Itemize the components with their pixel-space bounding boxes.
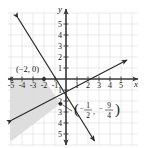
point-leader-line: [63, 105, 73, 111]
intersection-point-label: ( − 1 2 , − 9 4 ): [74, 101, 120, 120]
x-tick-label: -5: [8, 81, 15, 90]
x-tick-label: -4: [19, 81, 26, 90]
label-open-paren: (: [74, 101, 79, 118]
x-tick-label: -2: [41, 81, 48, 90]
x-intercept-label: (−2, 0): [16, 64, 39, 74]
x-tick-label: 5: [119, 81, 123, 90]
y-tick-label: 2: [58, 97, 62, 106]
y-tick-label: 1: [58, 64, 62, 73]
label-second-denominator: 4: [107, 111, 111, 120]
label-first-sign: −: [80, 105, 84, 113]
x-axis-label: x: [133, 79, 138, 89]
x-tick-label: 4: [108, 81, 112, 90]
label-close-paren: ): [115, 101, 120, 118]
label-first-denominator: 2: [86, 111, 90, 120]
coordinate-plane-figure: -5 -4 -3 -2 -1 1 2 3 4 5 5 4 3 2 1 1 2 3…: [0, 0, 144, 148]
y-tick-label: 2: [58, 53, 62, 62]
label-second-numerator: 9: [107, 101, 111, 110]
y-tick-label: 3: [58, 42, 62, 51]
y-tick-label: 4: [58, 31, 62, 40]
y-tick-label: 1: [58, 86, 62, 95]
y-tick-label: 3: [58, 108, 62, 117]
label-second-sign: −: [99, 105, 103, 113]
y-axis-label: y: [57, 4, 62, 14]
label-comma: ,: [93, 107, 95, 116]
y-tick-label: 4: [58, 119, 62, 128]
x-tick-label: 2: [86, 81, 90, 90]
y-tick-label: 5: [58, 130, 62, 139]
x-tick-label: -3: [30, 81, 37, 90]
graph-canvas: -5 -4 -3 -2 -1 1 2 3 4 5 5 4 3 2 1 1 2 3…: [0, 0, 144, 148]
label-first-numerator: 1: [86, 101, 90, 110]
y-tick-label: 5: [58, 20, 62, 29]
x-tick-label: 3: [97, 81, 101, 90]
x-tick-label: 1: [75, 81, 79, 90]
x-tick-labels: -5 -4 -3 -2 -1 1 2 3 4 5: [8, 81, 123, 90]
